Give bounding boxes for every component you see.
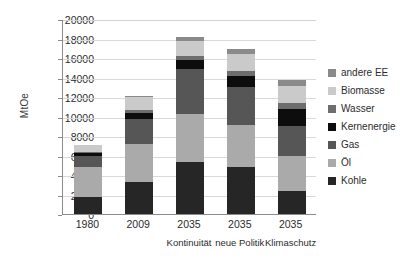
- legend-swatch-icon: [328, 87, 336, 95]
- y-axis-tick-mark: [58, 196, 62, 197]
- y-axis-title: MtOe: [19, 76, 30, 136]
- bar-segment-kohle[interactable]: [125, 182, 153, 214]
- chart-figure: MtOe 20000180001600014000120001000080006…: [0, 0, 414, 272]
- y-axis-tick-mark: [58, 118, 62, 119]
- bar-segment--l[interactable]: [176, 114, 204, 162]
- stacked-bar[interactable]: [176, 37, 204, 214]
- y-axis-tick-mark: [58, 176, 62, 177]
- legend-swatch-icon: [328, 69, 336, 77]
- legend-item--l[interactable]: Öl: [328, 154, 414, 172]
- legend-swatch-icon: [328, 141, 336, 149]
- bar-segment-kernenergie[interactable]: [227, 76, 255, 87]
- bar-segment--l[interactable]: [74, 167, 102, 197]
- bar-segment--l[interactable]: [278, 156, 306, 191]
- bar-segment-gas[interactable]: [278, 126, 306, 156]
- legend-label: Kohle: [341, 176, 367, 186]
- bar-segment-kernenergie[interactable]: [125, 113, 153, 120]
- bar-segment-biomasse[interactable]: [278, 86, 306, 104]
- legend-swatch-icon: [328, 177, 336, 185]
- bar-segment-kohle[interactable]: [74, 197, 102, 214]
- bar-segment-kernenergie[interactable]: [176, 60, 204, 69]
- bar-segment-gas[interactable]: [74, 156, 102, 168]
- stacked-bar[interactable]: [278, 80, 306, 214]
- legend-item-andere-ee[interactable]: andere EE: [328, 64, 414, 82]
- y-axis-tick-mark: [58, 79, 62, 80]
- bar-segment-biomasse[interactable]: [125, 97, 153, 110]
- x-axis-scenario-label: Klimaschutz: [260, 237, 322, 249]
- bar-segment-kohle[interactable]: [176, 162, 204, 214]
- stacked-bar[interactable]: [125, 96, 153, 214]
- bar-segment--l[interactable]: [227, 125, 255, 167]
- legend-label: Kernenergie: [341, 122, 395, 132]
- plot-area: [62, 20, 316, 215]
- legend-label: Öl: [341, 158, 351, 168]
- legend-swatch-icon: [328, 105, 336, 113]
- y-axis-tick-mark: [58, 157, 62, 158]
- chart-legend: andere EEBiomasseWasserKernenergieGasÖlK…: [328, 64, 414, 190]
- x-axis-year-label: 2035: [260, 218, 322, 230]
- legend-item-biomasse[interactable]: Biomasse: [328, 82, 414, 100]
- legend-swatch-icon: [328, 123, 336, 131]
- gridline: [63, 20, 316, 21]
- bar-segment-gas[interactable]: [125, 119, 153, 144]
- legend-item-wasser[interactable]: Wasser: [328, 100, 414, 118]
- y-axis-tick-mark: [58, 40, 62, 41]
- y-axis-tick-mark: [58, 215, 62, 216]
- y-axis-tick-mark: [58, 59, 62, 60]
- x-axis-category-5: 2035Klimaschutz: [260, 218, 322, 249]
- bar-segment-biomasse[interactable]: [176, 41, 204, 56]
- bar-segment-kohle[interactable]: [227, 167, 255, 214]
- bar-segment-gas[interactable]: [227, 87, 255, 126]
- bar-segment-kohle[interactable]: [278, 191, 306, 214]
- stacked-bar[interactable]: [227, 49, 255, 214]
- legend-swatch-icon: [328, 159, 336, 167]
- legend-item-gas[interactable]: Gas: [328, 136, 414, 154]
- bar-segment-gas[interactable]: [176, 69, 204, 114]
- legend-label: Wasser: [341, 104, 375, 114]
- bar-segment-biomasse[interactable]: [227, 54, 255, 71]
- y-axis-tick-mark: [58, 20, 62, 21]
- y-axis-tick-mark: [58, 98, 62, 99]
- legend-label: Biomasse: [341, 86, 385, 96]
- legend-item-kernenergie[interactable]: Kernenergie: [328, 118, 414, 136]
- stacked-bar[interactable]: [74, 145, 102, 214]
- y-axis-tick-mark: [58, 137, 62, 138]
- legend-item-kohle[interactable]: Kohle: [328, 172, 414, 190]
- legend-label: andere EE: [341, 68, 388, 78]
- bar-segment--l[interactable]: [125, 144, 153, 182]
- legend-label: Gas: [341, 140, 359, 150]
- bar-segment-kernenergie[interactable]: [278, 109, 306, 126]
